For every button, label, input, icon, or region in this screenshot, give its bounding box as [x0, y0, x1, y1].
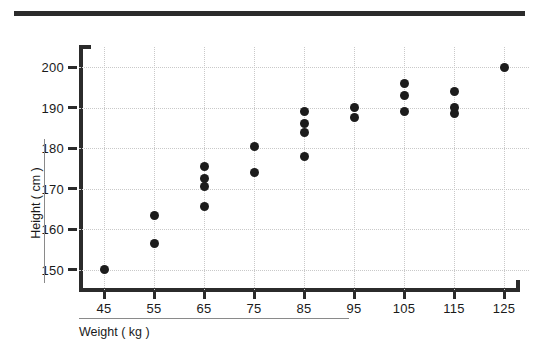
x-axis-title-rule: [79, 318, 349, 319]
data-point: [250, 142, 259, 151]
x-axis-tick-label: 85: [296, 301, 311, 316]
x-axis-tick: [453, 290, 456, 299]
data-point: [200, 202, 209, 211]
gridline-vertical: [304, 47, 305, 290]
scatter-chart-figure: 150160170180190200 455565758595105115125…: [0, 0, 539, 363]
x-axis-tick: [353, 290, 356, 299]
y-axis-tick-label: 190: [41, 100, 64, 115]
data-point: [200, 162, 209, 171]
data-point: [350, 113, 359, 122]
data-point: [350, 103, 359, 112]
y-axis-tick: [68, 106, 77, 109]
data-point: [150, 239, 159, 248]
x-axis-tick-label: 55: [146, 301, 161, 316]
data-point: [150, 211, 159, 220]
y-axis-title-wrapper: Height ( cm ): [14, 140, 44, 280]
gridline-vertical: [354, 47, 355, 290]
x-axis-tick: [153, 290, 156, 299]
x-axis-tick: [503, 290, 506, 299]
plot-area: 150160170180190200 455565758595105115125: [79, 47, 529, 290]
x-axis-tick-label: 75: [246, 301, 261, 316]
x-axis-tick: [103, 290, 106, 299]
gridline-vertical: [504, 47, 505, 290]
x-axis-tick-label: 125: [493, 301, 516, 316]
top-divider-rule: [14, 11, 525, 16]
data-point: [450, 87, 459, 96]
data-point: [200, 182, 209, 191]
data-point: [500, 63, 509, 72]
y-axis-title-rule: [44, 139, 45, 283]
data-point: [450, 109, 459, 118]
y-axis-tick: [68, 147, 77, 150]
x-axis-title: Weight ( kg ): [79, 325, 150, 339]
y-axis-tick-label: 200: [41, 60, 64, 75]
data-point: [300, 107, 309, 116]
y-axis-tick: [68, 228, 77, 231]
x-axis-tick-label: 65: [196, 301, 211, 316]
data-point: [400, 91, 409, 100]
x-axis-tick: [403, 290, 406, 299]
data-point: [100, 265, 109, 274]
y-axis-tick: [68, 66, 77, 69]
gridline-vertical: [154, 47, 155, 290]
x-axis-tick: [253, 290, 256, 299]
x-axis-tick-label: 115: [443, 301, 465, 316]
gridline-vertical: [104, 47, 105, 290]
y-axis-title: Height ( cm ): [29, 133, 43, 273]
data-point: [400, 79, 409, 88]
y-axis-tick: [68, 187, 77, 190]
gridline-vertical: [454, 47, 455, 290]
data-point: [300, 128, 309, 137]
x-axis-tick: [203, 290, 206, 299]
y-axis-tick: [68, 268, 77, 271]
data-point: [400, 107, 409, 116]
x-axis-tick-label: 45: [96, 301, 111, 316]
data-point: [250, 168, 259, 177]
data-point: [300, 152, 309, 161]
x-axis-tick-label: 95: [346, 301, 361, 316]
x-axis-tick-label: 105: [393, 301, 416, 316]
x-axis-tick: [303, 290, 306, 299]
